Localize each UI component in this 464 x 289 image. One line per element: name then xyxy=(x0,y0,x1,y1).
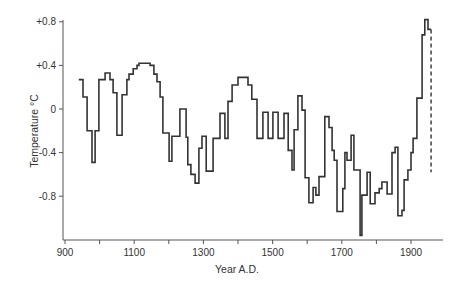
x-tick-label: 1700 xyxy=(331,247,354,258)
y-axis: +0.8+0.40-0.4-0.8 xyxy=(36,16,63,240)
x-tick-label: 1300 xyxy=(192,247,215,258)
x-tick-label: 900 xyxy=(57,247,74,258)
x-tick-label: 1900 xyxy=(400,247,423,258)
temperature-series-line xyxy=(79,20,431,236)
y-tick-label: 0 xyxy=(50,104,56,115)
x-axis: 90011001300150017001900 xyxy=(57,240,443,258)
x-tick-label: 1500 xyxy=(261,247,284,258)
y-tick-label: +0.4 xyxy=(36,60,56,71)
temperature-chart: +0.8+0.40-0.4-0.8 9001100130015001700190… xyxy=(0,0,464,289)
x-axis-title: Year A.D. xyxy=(215,263,259,275)
x-tick-label: 1100 xyxy=(123,247,145,258)
y-axis-title: Temperature °C xyxy=(28,94,40,168)
y-tick-label: +0.8 xyxy=(36,16,56,27)
y-tick-label: -0.4 xyxy=(39,147,57,158)
y-tick-label: -0.8 xyxy=(39,191,57,202)
